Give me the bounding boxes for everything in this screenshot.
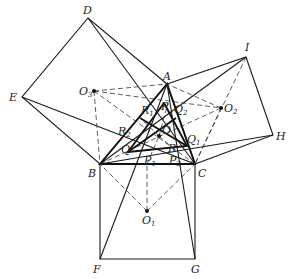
point-o3: [92, 89, 96, 93]
label-d: D: [82, 4, 92, 17]
label-q2: Q2: [174, 103, 188, 117]
geometry-figure: A B C D E F G H I O1 O2 O3 P Q2 R1 R2 O …: [0, 0, 291, 279]
point-o: [157, 134, 161, 138]
label-b: B: [87, 167, 96, 180]
label-o3: O3: [79, 85, 93, 99]
label-q: Q: [121, 143, 130, 156]
label-r1: R1: [140, 104, 154, 118]
label-p1: P1: [143, 154, 156, 168]
label-e: E: [8, 91, 17, 104]
label-c: C: [198, 167, 207, 180]
label-o2: O2: [224, 102, 238, 116]
label-r2: R2: [117, 125, 131, 139]
label-h: H: [275, 130, 286, 143]
label-p2: P2: [168, 154, 181, 168]
point-o2: [219, 106, 223, 110]
label-a: A: [162, 70, 171, 83]
point-o1: [145, 209, 149, 213]
label-f: F: [92, 263, 101, 276]
label-o: O: [162, 124, 171, 137]
label-q1: Q1: [187, 133, 201, 147]
label-o1: O1: [142, 214, 156, 228]
label-p: P: [160, 100, 169, 113]
label-g: G: [191, 263, 200, 276]
label-i: I: [244, 41, 250, 54]
